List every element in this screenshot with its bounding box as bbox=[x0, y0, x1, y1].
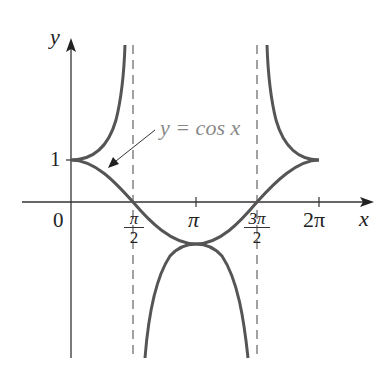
x-tick-2pi-label: 2π bbox=[303, 207, 325, 233]
cos-annotation-label: y = cos x bbox=[160, 115, 240, 141]
y-axis-label: y bbox=[50, 24, 60, 50]
x-tick-pi-label: π bbox=[188, 207, 199, 233]
origin-label: 0 bbox=[53, 208, 64, 233]
x-tick-pi-half-label: π 2 bbox=[124, 210, 144, 246]
frac-numerator: π bbox=[124, 210, 144, 228]
sec-curve-middle bbox=[145, 244, 248, 358]
sec-curve-left bbox=[71, 45, 125, 160]
frac-denominator: 2 bbox=[124, 228, 144, 246]
frac-numerator: 3π bbox=[244, 210, 270, 228]
x-axis-label: x bbox=[359, 206, 369, 232]
x-tick-three-pi-half-label: 3π 2 bbox=[244, 210, 270, 246]
annotation-arrow bbox=[116, 130, 155, 161]
y-tick-1-label: 1 bbox=[50, 147, 61, 172]
graph-canvas bbox=[0, 0, 392, 381]
x-ticks bbox=[66, 160, 319, 207]
frac-denominator: 2 bbox=[244, 228, 270, 246]
annotation-arrowhead-icon bbox=[108, 157, 119, 168]
sec-curve-right bbox=[267, 45, 319, 160]
